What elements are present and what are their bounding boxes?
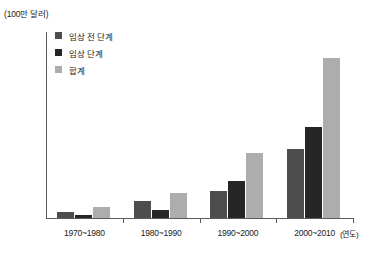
x-axis-tick-mark [123,218,124,223]
x-axis-title: (연도) [340,228,359,239]
legend-label: 임상 단계 [69,47,102,59]
legend-swatch-icon [55,32,62,39]
bar [75,215,92,218]
legend-label: 합계 [69,64,85,76]
bar [134,201,151,218]
bar [210,191,227,218]
legend-label: 임상 전 단계 [69,30,112,42]
bar [152,210,169,218]
chart-legend: 임상 전 단계임상 단계합계 [55,27,112,78]
bar [305,127,322,218]
x-axis-category-label: 1970~1980 [46,228,123,238]
x-axis-category-label: 1980~1990 [123,228,200,238]
bar [170,193,187,218]
bar [228,181,245,218]
legend-item: 합계 [55,61,112,78]
y-axis-unit-label: (100만 달러) [4,7,48,19]
bar [93,207,110,218]
bar [57,212,74,218]
bar [246,153,263,218]
legend-swatch-icon [55,49,62,56]
x-axis-category-label: 1990~2000 [200,228,277,238]
x-axis-tick-mark [276,218,277,223]
legend-swatch-icon [55,66,62,73]
bar [287,149,304,218]
x-axis-tick-mark [353,218,354,223]
legend-item: 임상 전 단계 [55,27,112,44]
bar [323,58,340,218]
bar-chart: (100만 달러) 05001,0001,5002,0002,5003,000 … [0,0,376,254]
x-axis-tick-mark [200,218,201,223]
legend-item: 임상 단계 [55,44,112,61]
